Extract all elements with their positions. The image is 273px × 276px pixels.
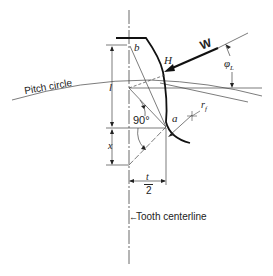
point-a-label: a (172, 113, 178, 124)
t-arrow-left (129, 179, 134, 183)
l-arrow-bottom (110, 122, 114, 127)
rf-subscript: f (205, 105, 207, 113)
point-h-label: H (164, 55, 172, 66)
x-arrow-bottom (110, 160, 114, 165)
line-apex-to-h (129, 75, 165, 88)
tooth-centerline-arrow: ← (129, 213, 138, 222)
fraction-bar (144, 184, 153, 185)
l-arrow-top (110, 46, 114, 51)
line-x-to-a (129, 127, 166, 165)
x-arrow-top (110, 129, 114, 134)
rf-leader (192, 111, 200, 116)
half-thickness-den: 2 (146, 186, 152, 196)
fillet-radius-label: rf (201, 100, 207, 113)
angle-arc-lower (138, 128, 144, 148)
right-angle-label: 90° (133, 115, 150, 126)
tooth-centerline-label: Tooth centerline (136, 212, 207, 222)
half-thickness-num: t (146, 172, 149, 182)
line-of-action (218, 33, 248, 48)
t-arrow-right (161, 179, 166, 183)
point-b-label: b (134, 42, 140, 53)
dimension-l-label: l (109, 82, 112, 93)
load-angle-label: φL (224, 58, 234, 72)
load-arrow (170, 48, 218, 69)
dimension-x-label: x (108, 141, 112, 151)
phi-subscript: L (230, 64, 234, 72)
